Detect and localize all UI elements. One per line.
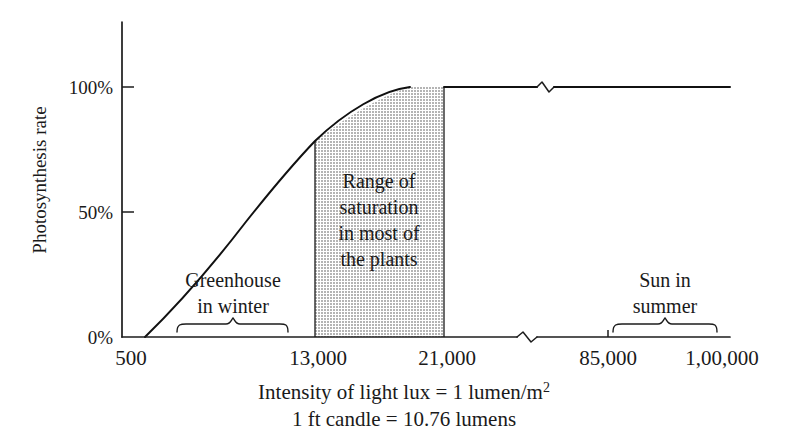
x-tick-label-85000: 85,000	[579, 346, 637, 370]
photosynthesis-light-intensity-figure: 100% 50% 0% Photosynthesis rate 500 13,0…	[0, 0, 803, 447]
sun-label-line1: Sun in	[639, 269, 691, 291]
plateau-break-symbol-icon	[537, 82, 554, 92]
x-axis-break-symbol-icon	[517, 332, 537, 342]
caption-line-2: 1 ft candle = 10.76 lumens	[292, 407, 516, 431]
figure-caption: Intensity of light lux = 1 lumen/m2 1 ft…	[258, 380, 550, 431]
plateau-line-group	[444, 82, 730, 92]
x-tick-label-13000: 13,000	[289, 346, 347, 370]
saturation-label-line4: the plants	[340, 248, 417, 271]
saturation-label-line1: Range of	[343, 170, 416, 193]
saturation-label-line2: saturation	[340, 196, 419, 218]
x-tick-label-21000: 21,000	[418, 346, 476, 370]
chart-canvas: 100% 50% 0% Photosynthesis rate 500 13,0…	[0, 0, 803, 447]
y-axis-title: Photosynthesis rate	[29, 106, 50, 253]
x-tick-label-100000: 1,00,000	[685, 346, 759, 370]
x-tick-label-500: 500	[115, 346, 147, 370]
y-axis: 100% 50% 0% Photosynthesis rate	[29, 22, 134, 348]
y-tick-label-100: 100%	[69, 77, 114, 98]
annotation-greenhouse-in-winter: Greenhouse in winter	[177, 269, 288, 332]
y-tick-label-0: 0%	[88, 327, 114, 348]
y-tick-label-50: 50%	[78, 202, 113, 223]
caption-line-1: Intensity of light lux = 1 lumen/m2	[258, 380, 550, 404]
greenhouse-brace	[177, 318, 288, 332]
greenhouse-label-line2: in winter	[197, 295, 269, 317]
sun-brace	[613, 318, 717, 332]
caption-line-1-main: Intensity of light lux = 1 lumen/m	[258, 380, 543, 404]
annotation-sun-in-summer: Sun in summer	[613, 269, 717, 332]
caption-line-1-superscript: 2	[543, 380, 550, 395]
saturation-label-line3: in most of	[338, 222, 419, 244]
sun-label-line2: summer	[633, 295, 698, 317]
greenhouse-label-line1: Greenhouse	[185, 269, 281, 291]
